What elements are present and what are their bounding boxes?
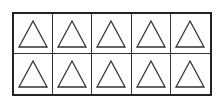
ten-frame-grid [12, 12, 212, 96]
triangle-icon [174, 59, 206, 89]
grid-cell [14, 54, 53, 94]
triangle-icon [56, 19, 88, 49]
grid-cell [132, 54, 171, 94]
triangle-icon [135, 19, 167, 49]
triangle-icon [56, 59, 88, 89]
triangle-icon [95, 19, 127, 49]
triangle-icon [17, 19, 49, 49]
grid-cell [171, 54, 210, 94]
grid-cell [53, 54, 92, 94]
triangle-icon [95, 59, 127, 89]
triangle-icon [135, 59, 167, 89]
grid-cell [132, 14, 171, 54]
grid-cell [92, 54, 131, 94]
grid-cell [14, 14, 53, 54]
grid-cell [53, 14, 92, 54]
grid-cell [92, 14, 131, 54]
triangle-icon [17, 59, 49, 89]
triangle-icon [174, 19, 206, 49]
grid-cell [171, 14, 210, 54]
